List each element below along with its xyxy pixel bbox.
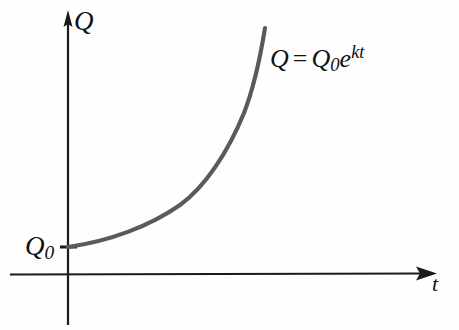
equation-rhs-subscript: 0 bbox=[330, 54, 339, 75]
y-axis-label-text: Q bbox=[74, 6, 94, 36]
horizontal-axis-line bbox=[10, 274, 424, 275]
figure-canvas bbox=[0, 0, 459, 330]
y-axis-label: Q bbox=[74, 6, 94, 37]
x-axis-label: t bbox=[432, 271, 438, 297]
equation-lhs: Q bbox=[270, 44, 289, 73]
equation-equals-sign: = bbox=[289, 44, 312, 73]
equation-annotation: Q=Q0ekt bbox=[270, 42, 364, 76]
background-watermark bbox=[140, 132, 212, 166]
y-intercept-label-main: Q bbox=[25, 231, 45, 261]
equation-rhs-exponent: kt bbox=[351, 42, 364, 62]
y-intercept-label: Q0 bbox=[25, 231, 54, 264]
equation-rhs-base: e bbox=[340, 44, 352, 73]
y-intercept-label-subscript: 0 bbox=[45, 242, 55, 263]
exponential-growth-figure: Q t Q0 Q=Q0ekt bbox=[0, 0, 459, 330]
equation-rhs-main: Q bbox=[311, 44, 330, 73]
x-axis-label-text: t bbox=[432, 271, 438, 296]
